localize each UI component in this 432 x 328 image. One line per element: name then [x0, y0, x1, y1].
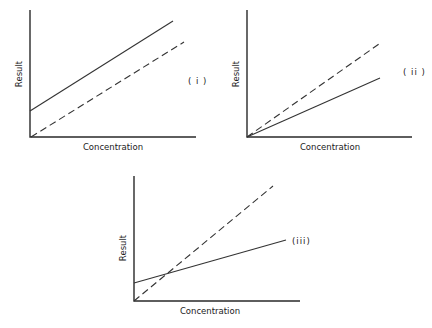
- solid-line-iii: [134, 240, 286, 283]
- panel-tag-i: ( i ): [188, 76, 207, 86]
- dashed-line-ii: [247, 44, 379, 137]
- solid-line-i: [30, 21, 173, 111]
- panel-tag-ii: ( ii ): [403, 67, 426, 77]
- solid-line-ii: [247, 78, 380, 137]
- y-axis-label-i: Result: [14, 60, 24, 87]
- x-axis-label-iii: Concentration: [180, 306, 240, 316]
- diagram-canvas: ( i ) Concentration Result ( ii ) Concen…: [0, 0, 432, 328]
- panel-tag-iii: (iii): [292, 236, 311, 246]
- axes-ii: [247, 10, 412, 137]
- dashed-line-iii: [134, 186, 273, 301]
- x-axis-label-i: Concentration: [83, 142, 143, 152]
- x-axis-label-ii: Concentration: [300, 142, 360, 152]
- y-axis-label-ii: Result: [231, 60, 241, 87]
- y-axis-label-iii: Result: [118, 234, 128, 261]
- panel-iii: (iii) Concentration Result: [118, 176, 311, 316]
- axes-i: [30, 10, 196, 137]
- dashed-line-i: [31, 42, 184, 137]
- axes-iii: [134, 176, 300, 301]
- panel-i: ( i ) Concentration Result: [14, 10, 207, 152]
- panel-ii: ( ii ) Concentration Result: [231, 10, 426, 152]
